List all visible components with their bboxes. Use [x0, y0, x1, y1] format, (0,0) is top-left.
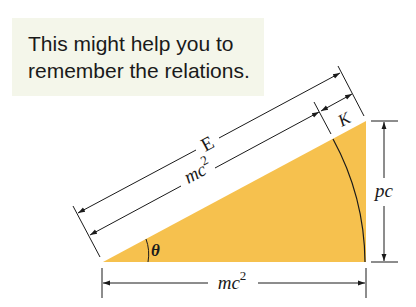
k-label: K	[334, 108, 355, 131]
e-dimension-right	[219, 73, 340, 138]
base-mc2-exponent: 2	[240, 268, 247, 283]
e-label: E	[197, 131, 217, 155]
pc-label: pc	[373, 180, 394, 201]
right-extension-line	[338, 66, 364, 116]
right-triangle	[103, 121, 366, 262]
angle-theta-label: θ	[151, 241, 160, 260]
svg-text:mc2: mc2	[178, 152, 215, 188]
mc2-hyp-label-group: mc2	[178, 152, 215, 188]
energy-triangle-diagram: θ E mc2 K pc mc2	[0, 0, 416, 307]
k-dimension	[321, 94, 352, 111]
base-mc2-label: mc	[218, 272, 241, 293]
base-label-group: mc2	[218, 268, 247, 293]
e-dimension-left	[78, 150, 196, 213]
